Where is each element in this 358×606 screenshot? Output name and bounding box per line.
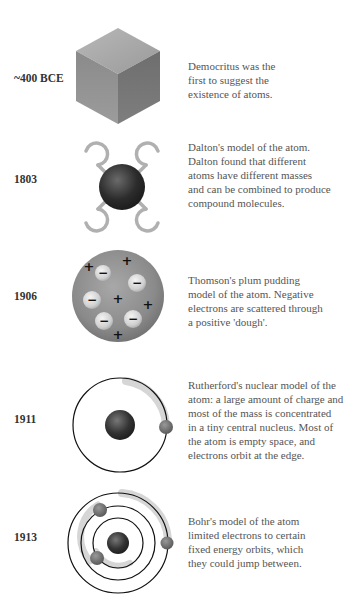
description: Thomson's plum pudding model of the atom… bbox=[188, 273, 358, 329]
svg-text:−: − bbox=[99, 314, 109, 328]
timeline-entry-bohr: 1913 Bohr's model of the atom limited el… bbox=[0, 485, 358, 606]
timeline-entry-democritus: ~400 BCE Democritus was the first to sug… bbox=[0, 0, 358, 125]
svg-text:+: + bbox=[122, 253, 133, 268]
description: Democritus was the first to suggest the … bbox=[188, 59, 358, 101]
plum-pudding-icon: − − − − − + + + + + bbox=[69, 249, 167, 343]
svg-text:−: − bbox=[128, 312, 138, 326]
description: Rutherford's nuclear model of the atom: … bbox=[188, 378, 358, 462]
year-label: ~400 BCE bbox=[14, 72, 64, 84]
svg-text:+: + bbox=[113, 327, 124, 342]
description: Dalton's model of the atom. Dalton found… bbox=[188, 140, 358, 210]
year-label: 1906 bbox=[14, 290, 37, 302]
timeline-entry-thomson: 1906 − − − − − + + + + + Thomson's plum … bbox=[0, 245, 358, 365]
svg-text:+: + bbox=[143, 297, 154, 312]
year-label: 1913 bbox=[14, 531, 37, 543]
timeline-entry-dalton: 1803 Dalton's model of the atom. Dalton … bbox=[0, 125, 358, 245]
rutherford-atom-icon bbox=[66, 369, 176, 477]
svg-text:−: − bbox=[98, 266, 108, 280]
svg-text:−: − bbox=[132, 276, 142, 290]
bohr-atom-icon bbox=[60, 485, 178, 597]
description: Bohr's model of the atom limited electro… bbox=[188, 514, 358, 570]
dalton-atom-icon bbox=[68, 137, 176, 237]
svg-text:+: + bbox=[84, 259, 95, 274]
year-label: 1803 bbox=[14, 173, 37, 185]
svg-text:−: − bbox=[87, 293, 97, 307]
svg-text:+: + bbox=[113, 291, 124, 306]
cube-icon bbox=[74, 26, 162, 126]
year-label: 1911 bbox=[14, 413, 36, 425]
timeline-entry-rutherford: 1911 Rutherford's nuclear model of the a… bbox=[0, 365, 358, 485]
